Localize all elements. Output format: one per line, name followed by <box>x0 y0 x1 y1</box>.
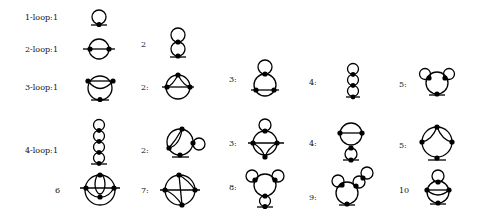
diagram-4-loop-1 <box>91 120 107 166</box>
diagram-4-loop-9 <box>332 167 373 207</box>
diagram-3-loop-5 <box>420 69 455 97</box>
diagram-4-loop-6 <box>80 172 120 205</box>
diagram-3-loop-3 <box>251 60 279 96</box>
diagram-2-loop-2 <box>170 28 186 59</box>
diagram-4-loop-8 <box>246 170 284 209</box>
diagram-3-loop-2 <box>162 72 194 99</box>
diagram-4-loop-7 <box>160 172 200 207</box>
diagram-1-loop-1 <box>91 10 107 27</box>
diagram-4-loop-2 <box>166 126 205 157</box>
diagram-4-loop-4 <box>337 123 364 163</box>
diagram-3-loop-1 <box>85 76 115 102</box>
diagram-3-loop-4 <box>346 64 360 100</box>
diagram-4-loop-5 <box>419 124 454 160</box>
diagram-4-loop-10 <box>424 170 451 206</box>
diagram-4-loop-3 <box>248 119 284 160</box>
feynman-diagrams <box>0 0 481 221</box>
diagram-2-loop-1 <box>83 39 115 59</box>
